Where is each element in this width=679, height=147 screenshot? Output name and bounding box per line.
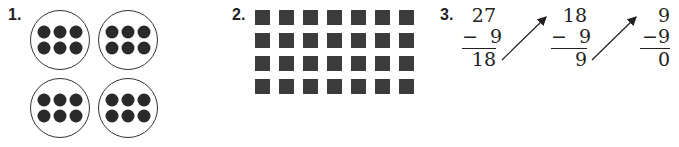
arrow-icon	[592, 17, 636, 60]
step-arrows	[0, 0, 679, 147]
arrow-icon	[502, 17, 546, 60]
